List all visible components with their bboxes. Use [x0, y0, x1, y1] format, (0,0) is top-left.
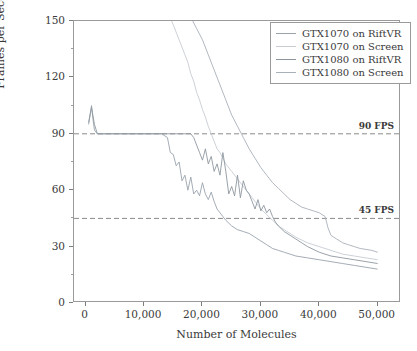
legend-item-1[interactable]: GTX1070 on Screen: [276, 40, 404, 53]
x-axis-title: Number of Molecules: [73, 328, 400, 341]
legend-item-0[interactable]: GTX1070 on RiftVR: [276, 27, 404, 40]
y-tick-label: 60: [25, 183, 65, 195]
x-tick-label: 10,000: [113, 308, 173, 320]
legend-swatch-icon: [276, 33, 296, 34]
legend-swatch-icon: [276, 72, 296, 73]
chart-legend[interactable]: GTX1070 on RiftVRGTX1070 on ScreenGTX108…: [270, 22, 411, 84]
chart-figure: Frames per Second (fps) 0306090120150 01…: [0, 0, 417, 351]
45-fps-threshold-label: 45 FPS: [344, 205, 394, 215]
legend-swatch-icon: [276, 59, 296, 60]
x-tick-label: 20,000: [171, 308, 231, 320]
legend-item-2[interactable]: GTX1080 on RiftVR: [276, 53, 404, 66]
series-line-2: [89, 107, 378, 263]
x-tick-label: 0: [55, 308, 115, 320]
y-tick-label: 120: [25, 70, 65, 82]
y-tick-label: 30: [25, 240, 65, 252]
y-axis-title: Frames per Second (fps): [0, 0, 7, 100]
y-tick-label: 0: [25, 296, 65, 308]
y-tick-label: 150: [25, 14, 65, 26]
legend-label: GTX1070 on RiftVR: [302, 27, 401, 40]
legend-label: GTX1080 on RiftVR: [302, 53, 401, 66]
x-tick-label: 40,000: [288, 308, 348, 320]
90-fps-threshold-label: 90 FPS: [344, 121, 394, 131]
legend-label: GTX1070 on Screen: [302, 40, 404, 53]
x-tick-label: 30,000: [230, 308, 290, 320]
series-line-0: [89, 106, 378, 270]
y-tick-label: 90: [25, 127, 65, 139]
legend-item-3[interactable]: GTX1080 on Screen: [276, 66, 404, 79]
y-tick-mark: [69, 302, 73, 303]
legend-label: GTX1080 on Screen: [302, 66, 404, 79]
x-tick-label: 50,000: [347, 308, 407, 320]
legend-swatch-icon: [276, 46, 296, 47]
